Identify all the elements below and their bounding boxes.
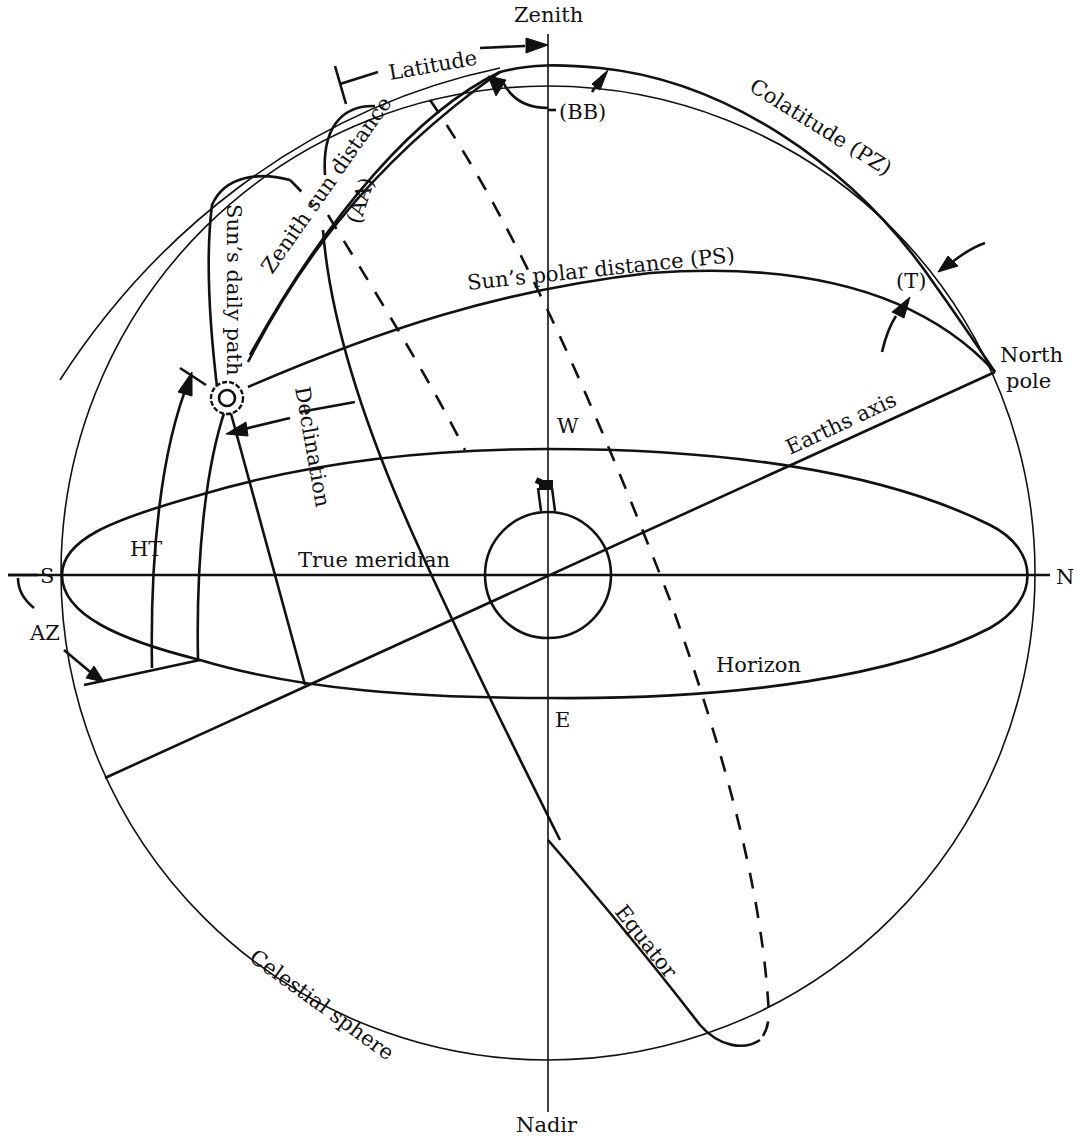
label-t: (T) [896,269,926,293]
latitude-leader-left [340,72,378,84]
aa-curve [323,230,560,840]
t-arrow-upper [952,243,985,262]
ht-arc [152,378,190,668]
declination-arrowhead [226,422,248,436]
sun-icon [211,382,243,414]
t-arrow-lower [882,316,896,352]
label-celestial-sphere: Celestial sphere [245,945,398,1066]
suns-polar-distance-arc [248,271,995,387]
label-suns-daily-path: Sun’s daily path [222,204,246,375]
label-aa: (AA) [342,175,379,227]
label-latitude: Latitude [387,46,479,85]
bb-arrow-tail [592,86,596,92]
sun-hour-circle [230,410,305,685]
label-declination: Declination [290,385,335,509]
label-az: AZ [29,621,60,645]
celestial-sphere-diagram: Zenith Nadir Latitude Colatitude (PZ) (B… [0,0,1081,1139]
label-ht: HT [130,537,162,561]
label-north-pole-1: North [1000,343,1063,367]
label-true-meridian: True meridian [298,548,450,572]
suns-daily-path-lower [198,410,225,660]
latitude-leader-right [480,46,525,48]
label-south: S [40,564,54,588]
equator-upper-dashed [328,215,465,450]
ht-tick [180,368,206,385]
label-nadir: Nadir [516,1113,578,1137]
label-equator: Equator [610,900,682,983]
label-north: N [1056,565,1074,589]
bb-arc [502,80,548,108]
label-suns-polar-distance: Sun’s polar distance (PS) [466,243,736,295]
label-east: E [555,708,570,732]
telescope-icon [536,480,555,511]
latitude-arrowhead [526,38,548,53]
label-horizon: Horizon [716,653,801,677]
az-arc [18,578,34,608]
label-north-pole-2: pole [1006,369,1051,393]
t-arrowhead-lower [892,297,910,318]
label-west: W [557,414,579,438]
az-arrowhead [86,666,104,682]
label-zenith: Zenith [514,3,583,27]
bb-arrowhead-left [488,76,506,96]
label-bb: (BB) [559,100,606,124]
